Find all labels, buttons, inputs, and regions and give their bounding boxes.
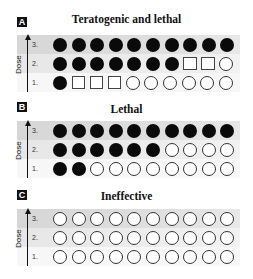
open-circle-icon xyxy=(146,162,160,176)
filled-circle-icon xyxy=(165,124,179,138)
filled-circle-icon xyxy=(53,38,67,52)
marks-row xyxy=(53,54,238,73)
open-circle-icon xyxy=(182,76,196,90)
open-circle-icon xyxy=(202,162,216,176)
open-circle-icon xyxy=(127,231,141,245)
panel-title: Teratogenic and lethal xyxy=(0,13,253,25)
open-circle-icon xyxy=(127,212,141,226)
filled-circle-icon xyxy=(109,143,123,157)
filled-circle-icon xyxy=(109,57,123,71)
open-circle-icon xyxy=(202,250,216,264)
open-circle-icon xyxy=(163,76,177,90)
filled-circle-icon xyxy=(146,57,160,71)
panel-title: Lethal xyxy=(0,103,253,115)
filled-circle-icon xyxy=(109,38,123,52)
dose-label: 3. xyxy=(32,209,38,228)
marks-row xyxy=(53,121,239,140)
filled-circle-icon xyxy=(146,124,160,138)
filled-circle-icon xyxy=(220,38,234,52)
open-circle-icon xyxy=(165,231,179,245)
filled-circle-icon xyxy=(127,38,141,52)
open-circle-icon xyxy=(53,231,67,245)
open-square-icon xyxy=(183,57,197,71)
dose-label: 2. xyxy=(32,228,38,247)
open-circle-icon xyxy=(220,212,234,226)
marks-row xyxy=(53,159,239,178)
dose-label: 1. xyxy=(32,159,38,178)
dose-axis-title: Dose xyxy=(14,55,23,74)
marks-row xyxy=(53,35,239,54)
dose-axis-line xyxy=(27,125,28,178)
dose-label: 2. xyxy=(32,140,38,159)
filled-circle-icon xyxy=(90,57,104,71)
filled-circle-icon xyxy=(90,124,104,138)
filled-circle-icon xyxy=(53,162,67,176)
open-circle-icon xyxy=(183,212,197,226)
open-circle-icon xyxy=(90,231,104,245)
filled-circle-icon xyxy=(72,162,86,176)
open-circle-icon xyxy=(165,212,179,226)
open-square-icon xyxy=(108,76,122,90)
open-circle-icon xyxy=(165,250,179,264)
open-circle-icon xyxy=(90,162,104,176)
marks-row xyxy=(53,209,239,228)
open-circle-icon xyxy=(220,231,234,245)
open-circle-icon xyxy=(183,143,197,157)
filled-circle-icon xyxy=(220,124,234,138)
open-circle-icon xyxy=(72,212,86,226)
dose-axis-title: Dose xyxy=(14,229,23,248)
marks-row xyxy=(53,228,239,247)
open-circle-icon xyxy=(219,57,233,71)
marks-row xyxy=(53,73,237,92)
dose-label: 2. xyxy=(32,54,38,73)
open-circle-icon xyxy=(109,212,123,226)
dose-axis-title: Dose xyxy=(14,141,23,160)
open-circle-icon xyxy=(183,250,197,264)
dose-label: 3. xyxy=(32,35,38,54)
open-circle-icon xyxy=(220,162,234,176)
filled-circle-icon xyxy=(146,143,160,157)
filled-circle-icon xyxy=(127,57,141,71)
open-circle-icon xyxy=(220,250,234,264)
filled-circle-icon xyxy=(165,57,179,71)
filled-circle-icon xyxy=(90,143,104,157)
open-square-icon xyxy=(90,76,104,90)
open-circle-icon xyxy=(109,250,123,264)
open-circle-icon xyxy=(220,143,234,157)
open-circle-icon xyxy=(72,231,86,245)
filled-circle-icon xyxy=(53,76,67,90)
dose-label: 1. xyxy=(32,73,38,92)
open-circle-icon xyxy=(127,250,141,264)
filled-circle-icon xyxy=(127,143,141,157)
open-circle-icon xyxy=(146,231,160,245)
filled-circle-icon xyxy=(53,124,67,138)
filled-circle-icon xyxy=(109,124,123,138)
dose-axis-line xyxy=(27,213,28,266)
marks-row xyxy=(53,247,239,266)
open-circle-icon xyxy=(126,76,140,90)
panel-title: Ineffective xyxy=(0,190,253,202)
open-circle-icon xyxy=(53,250,67,264)
filled-circle-icon xyxy=(72,143,86,157)
open-circle-icon xyxy=(146,212,160,226)
open-circle-icon xyxy=(202,143,216,157)
open-circle-icon xyxy=(183,231,197,245)
filled-circle-icon xyxy=(183,38,197,52)
open-circle-icon xyxy=(202,231,216,245)
open-circle-icon xyxy=(146,250,160,264)
open-circle-icon xyxy=(165,143,179,157)
open-circle-icon xyxy=(53,212,67,226)
marks-row xyxy=(53,140,239,159)
filled-circle-icon xyxy=(72,57,86,71)
filled-circle-icon xyxy=(146,38,160,52)
filled-circle-icon xyxy=(127,124,141,138)
open-circle-icon xyxy=(165,162,179,176)
filled-circle-icon xyxy=(72,38,86,52)
open-circle-icon xyxy=(200,76,214,90)
filled-circle-icon xyxy=(72,124,86,138)
open-square-icon xyxy=(72,76,86,90)
filled-circle-icon xyxy=(53,143,67,157)
filled-circle-icon xyxy=(53,57,67,71)
filled-circle-icon xyxy=(165,38,179,52)
dose-axis-line xyxy=(27,39,28,92)
